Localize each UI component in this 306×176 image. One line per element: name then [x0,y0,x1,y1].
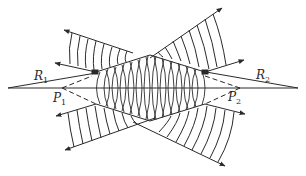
label-r2-base: R [256,68,265,82]
label-r2-sub: 2 [265,75,270,84]
wavefronts-lower-left [68,106,137,147]
interference-diagram: R1 R2 P1 P2 [0,0,306,176]
diagram-canvas [0,0,306,176]
arrow-upper-left-outer [64,30,133,53]
label-p1-base: P [53,91,61,105]
dashed-line-p2-upper [205,76,240,88]
dashed-line-p1-lower [62,88,96,104]
label-p2-base: P [228,90,236,104]
arrow-upper-right-inner [205,60,244,72]
arrow-lower-right-outer [133,122,225,166]
label-p2-sub: 2 [236,97,241,106]
ray-r1 [8,73,96,88]
dashed-lines [62,76,240,104]
label-r2: R2 [256,69,270,84]
ray-r2 [206,72,298,88]
label-p1: P1 [53,92,66,107]
right-junction-mark [202,70,208,74]
left-junction-mark [92,70,98,74]
label-r1: R1 [34,70,48,85]
arrow-upper-left-inner [55,63,96,72]
label-r1-base: R [34,69,43,83]
label-r1-sub: 1 [43,76,48,85]
label-p2: P2 [228,91,241,106]
label-p1-sub: 1 [61,98,66,107]
